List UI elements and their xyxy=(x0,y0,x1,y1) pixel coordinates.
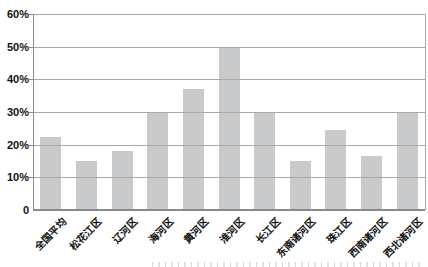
bar-6 xyxy=(219,47,240,210)
bar-10 xyxy=(361,156,382,210)
x-axis-label-9: 珠江区 xyxy=(325,216,354,245)
gridline-40 xyxy=(33,79,425,80)
plot-right-border xyxy=(425,14,426,210)
bar-4 xyxy=(147,112,168,210)
gridline-20 xyxy=(33,145,425,146)
y-axis-label-10pct: 10% xyxy=(0,171,29,183)
gridline-10 xyxy=(33,177,425,178)
bar-chart: 010%20%30%40%50%60%全国平均松花江区辽河区海河区黄河区淮河区长… xyxy=(0,0,428,267)
x-axis-label-2: 松花江区 xyxy=(68,216,104,252)
x-axis-label-4: 海河区 xyxy=(147,216,176,245)
bar-1 xyxy=(40,137,61,211)
y-tick-50 xyxy=(29,47,33,48)
y-tick-60 xyxy=(29,14,33,15)
bar-11 xyxy=(397,112,418,210)
y-axis-line xyxy=(33,14,34,210)
gridline-50 xyxy=(33,47,425,48)
bar-9 xyxy=(325,130,346,210)
bar-3 xyxy=(112,151,133,210)
bar-2 xyxy=(76,161,97,210)
bar-8 xyxy=(290,161,311,210)
y-axis-label-0: 0 xyxy=(0,204,29,216)
y-tick-30 xyxy=(29,112,33,113)
x-axis-label-3: 辽河区 xyxy=(111,216,140,245)
bar-5 xyxy=(183,89,204,210)
y-tick-10 xyxy=(29,177,33,178)
x-axis-label-7: 长江区 xyxy=(253,216,282,245)
y-axis-label-50pct: 50% xyxy=(0,41,29,53)
x-axis-label-1: 全国平均 xyxy=(33,216,69,252)
y-axis-label-60pct: 60% xyxy=(0,8,29,20)
x-axis-line xyxy=(33,209,425,211)
chart-screenshot: 010%20%30%40%50%60%全国平均松花江区辽河区海河区黄河区淮河区长… xyxy=(0,0,428,267)
cropped-caption-fragment xyxy=(152,262,425,267)
y-tick-40 xyxy=(29,79,33,80)
bar-7 xyxy=(254,112,275,210)
gridline-60 xyxy=(33,14,425,15)
x-axis-label-5: 黄河区 xyxy=(182,216,211,245)
gridline-30 xyxy=(33,112,425,113)
x-axis-label-6: 淮河区 xyxy=(218,216,247,245)
y-axis-label-30pct: 30% xyxy=(0,106,29,118)
y-tick-20 xyxy=(29,145,33,146)
y-axis-label-20pct: 20% xyxy=(0,139,29,151)
y-axis-label-40pct: 40% xyxy=(0,73,29,85)
